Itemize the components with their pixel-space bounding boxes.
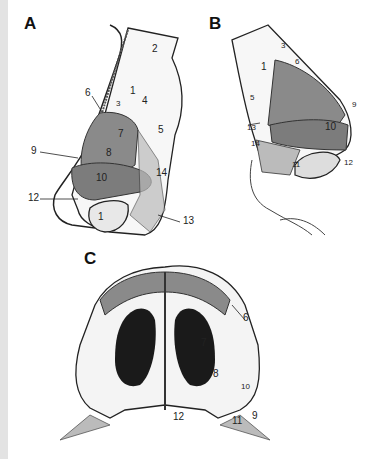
label-c-12: 12 — [173, 412, 184, 422]
label-a-8: 8 — [106, 148, 112, 158]
label-b-11: 11 — [292, 161, 300, 169]
label-a-9: 9 — [31, 146, 37, 156]
label-b-10: 10 — [325, 122, 336, 132]
label-b-9: 9 — [352, 101, 356, 109]
panel-label-b: B — [209, 14, 221, 34]
label-c-9: 9 — [252, 411, 258, 421]
panel-c-drawing — [60, 266, 270, 440]
panel-label-a: A — [24, 14, 36, 34]
label-a-6: 6 — [85, 88, 91, 98]
anatomy-drawing — [0, 0, 383, 459]
label-b-6: 6 — [295, 58, 299, 66]
label-c-6: 6 — [243, 313, 249, 323]
label-b-14: 14 — [251, 140, 260, 148]
label-a-5: 5 — [158, 125, 164, 135]
label-c-7: 7 — [201, 338, 207, 348]
label-c-10: 10 — [241, 383, 250, 391]
label-a-1: 1 — [130, 86, 136, 96]
label-c-11: 11 — [232, 416, 242, 426]
label-a-13: 13 — [183, 216, 194, 226]
label-b-13: 13 — [247, 124, 256, 132]
label-a-10: 10 — [96, 173, 107, 183]
label-a-2: 2 — [152, 44, 158, 54]
label-a-4: 4 — [142, 96, 148, 106]
label-b-3: 3 — [281, 42, 285, 50]
label-b-12: 12 — [344, 159, 353, 167]
label-a-3: 3 — [116, 100, 120, 108]
label-a-1b: 1 — [98, 212, 104, 222]
label-c-8: 8 — [213, 369, 219, 379]
label-a-12: 12 — [28, 193, 39, 203]
label-b-5: 5 — [250, 94, 254, 102]
label-a-14: 14 — [156, 168, 167, 178]
label-a-7: 7 — [118, 129, 124, 139]
panel-label-c: C — [84, 249, 96, 269]
label-b-1: 1 — [261, 62, 267, 72]
